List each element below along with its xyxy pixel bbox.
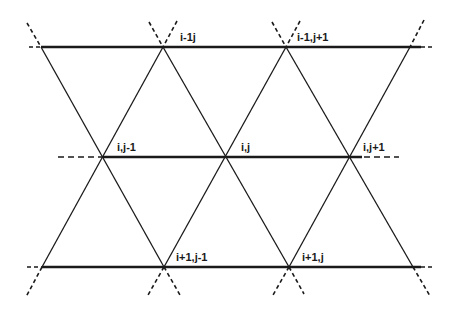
label-i-plus-1-j: i+1,j [302, 251, 324, 263]
diag-dr-1-dash-bottom [164, 267, 180, 295]
diag-dr-2-dash-bottom [289, 267, 304, 294]
diag-dr-3-dash-top [272, 22, 286, 47]
node-labels: i-1j i-1,j+1 i,j-1 i,j i,j+1 i+1,j-1 i+1… [117, 31, 385, 263]
diag-dl-3-dash-bottom [273, 267, 289, 295]
label-i-j-minus-1: i,j-1 [117, 141, 136, 153]
diag-dr-2-dash-top [149, 22, 163, 47]
triangular-grid-diagram: i-1j i-1,j+1 i,j-1 i,j i,j+1 i+1,j-1 i+1… [0, 0, 453, 311]
horizontal-grid-lines [27, 47, 434, 267]
diag-dr-1-dash-top [27, 23, 41, 47]
diag-dl-1-dash-top [163, 21, 177, 47]
diag-dl-2-dash-bottom [148, 267, 164, 295]
diagonal-grid-lines [26, 20, 430, 297]
diag-dr-3-dash-bottom [413, 267, 430, 296]
label-i-j: i,j [241, 141, 250, 153]
label-i-minus-1-j: i-1j [180, 31, 196, 43]
diag-dl-1-dash-bottom [26, 267, 42, 297]
label-i-plus-1-j-minus-1: i+1,j-1 [176, 251, 208, 263]
label-i-minus-1-j-plus-1: i-1,j+1 [297, 31, 329, 43]
diag-dl-3-dash-top [410, 20, 424, 47]
label-i-j-plus-1: i,j+1 [363, 141, 385, 153]
